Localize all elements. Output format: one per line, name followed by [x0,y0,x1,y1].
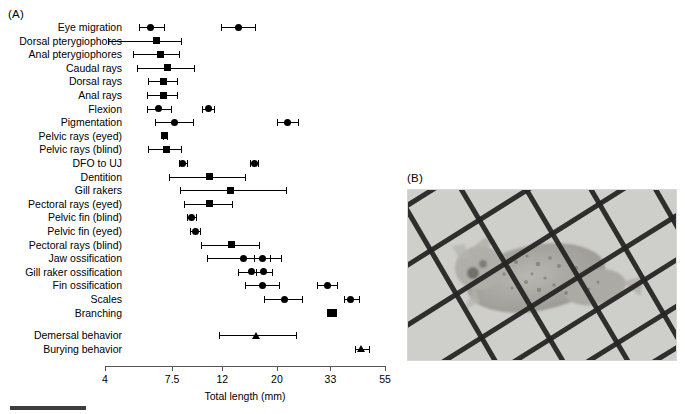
x-axis-tick [105,366,106,371]
chart-row: Flexion [0,102,400,116]
chart-row: Caudal rays [0,61,400,75]
chart-row: Gill rakers [0,183,400,197]
data-point-square [163,146,170,153]
data-point-triangle [357,345,365,352]
chart-row: DFO to UJ [0,156,400,170]
chart-row: Dorsal rays [0,74,400,88]
data-point-square [206,200,213,207]
chart-row: Dentition [0,170,400,184]
data-point-circle [347,296,354,303]
row-plot-area [0,34,400,48]
chart-row: Scales [0,292,400,306]
data-point-circle [251,160,258,167]
chart-row: Pigmentation [0,115,400,129]
data-point-square [228,241,235,248]
row-plot-area [0,183,400,197]
photo-svg [408,190,676,360]
chart-row: Pelvic rays (eyed) [0,129,400,143]
row-plot-area [0,328,400,342]
x-axis-tick [385,366,386,371]
row-plot-area [0,265,400,279]
chart-row: Anal pterygiophores [0,47,400,61]
panel-b-photo-container [407,189,677,361]
x-axis-tick-label: 12 [217,373,229,385]
x-axis-tick [330,366,331,371]
flatfish-larva-photo [407,189,677,361]
error-bar [108,41,182,42]
chart-row: Fin ossification [0,278,400,292]
row-plot-area [0,170,400,184]
data-point-circle [284,119,291,126]
data-point-circle [248,268,255,275]
chart-row: Jaw ossification [0,251,400,265]
chart-row: Pectoral rays (eyed) [0,197,400,211]
data-point-circle [179,160,186,167]
x-axis-title: Total length (mm) [105,390,385,402]
chart-row: Branching [0,306,400,320]
row-plot-area [0,251,400,265]
chart-row: Eye migration [0,20,400,34]
x-axis-tick [172,366,173,371]
x-axis-tick-label: 55 [379,373,391,385]
panel-b-letter: (B) [407,172,423,184]
row-plot-area [0,61,400,75]
data-point-circle [188,214,195,221]
row-plot-area [0,102,400,116]
data-point-square [160,78,167,85]
chart-row: Pelvic fin (blind) [0,210,400,224]
x-axis-tick [277,366,278,371]
data-point-circle [147,24,154,31]
data-point-circle [281,296,288,303]
data-point-triangle [252,332,260,339]
row-plot-area [0,47,400,61]
x-axis-tick-label: 33 [325,373,337,385]
x-axis-tick [222,366,223,371]
row-plot-area [0,88,400,102]
x-axis-line [105,366,385,367]
chart-row: Gill raker ossification [0,265,400,279]
data-point-circle [205,105,212,112]
x-axis-tick-label: 20 [271,373,283,385]
row-plot-area [0,197,400,211]
data-point-square [153,37,160,44]
chart-row: Dorsal pterygiophores [0,34,400,48]
data-point-circle [260,268,267,275]
chart-row: Demersal behavior [0,328,400,342]
data-point-circle [259,255,266,262]
x-axis-tick-label: 4 [102,373,108,385]
chart-row: Pelvic fin (eyed) [0,224,400,238]
data-point-square [157,51,164,58]
chart-row: Anal rays [0,88,400,102]
chart-row: Pectoral rays (blind) [0,238,400,252]
chart-row: Burying behavior [0,342,400,356]
row-plot-area [0,224,400,238]
data-point-circle [235,24,242,31]
row-plot-area [0,142,400,156]
row-plot-area [0,278,400,292]
row-plot-area [0,306,400,320]
row-plot-area [0,129,400,143]
data-point-square [160,92,167,99]
data-point-circle [192,228,199,235]
row-plot-area [0,20,400,34]
row-plot-area [0,238,400,252]
data-point-square [164,64,171,71]
row-plot-area [0,342,400,356]
chart-row: Pelvic rays (blind) [0,142,400,156]
data-point-circle [324,282,331,289]
data-point-square-wide [327,309,337,317]
row-plot-area [0,115,400,129]
data-point-circle [155,105,162,112]
figure-root: (A) Eye migrationDorsal pterygiophoresAn… [0,0,685,414]
row-plot-area [0,74,400,88]
x-axis-tick-label: 7.5 [165,373,180,385]
panel-a-chart: Eye migrationDorsal pterygiophoresAnal p… [0,0,400,414]
row-plot-area [0,292,400,306]
data-point-circle [259,282,266,289]
data-point-square [227,187,234,194]
row-plot-area [0,210,400,224]
data-point-square [161,132,168,139]
scale-bar [10,406,86,410]
data-point-square [206,173,213,180]
data-point-circle [171,119,178,126]
